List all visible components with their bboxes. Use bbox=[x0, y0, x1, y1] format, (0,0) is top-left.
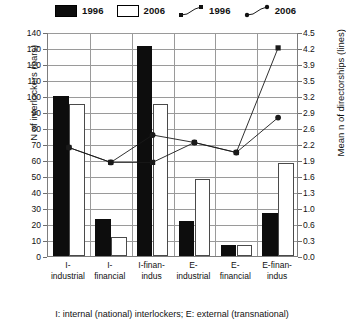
left-axis-tick-label: 0 bbox=[17, 253, 41, 262]
x-axis-label-line1: I- bbox=[89, 260, 131, 271]
right-axis-tick-label: 2.6 bbox=[303, 125, 329, 134]
x-axis-label-i-industrial: I-industrial bbox=[47, 260, 89, 281]
left-axis-tick-label: 80 bbox=[17, 125, 41, 134]
left-axis-tick-label: 140 bbox=[17, 29, 41, 38]
left-axis-tick-mark bbox=[43, 33, 47, 34]
line-circle-marker-icon bbox=[244, 5, 270, 18]
left-axis-tick-label: 50 bbox=[17, 173, 41, 182]
left-axis-tick-mark bbox=[43, 65, 47, 66]
right-axis-tick-label: 4.2 bbox=[303, 45, 329, 54]
right-axis-tick-mark bbox=[298, 225, 302, 226]
filled-square-swatch-icon bbox=[55, 5, 77, 17]
x-axis-label-line2: financial bbox=[214, 271, 256, 282]
right-axis-tick-mark bbox=[298, 177, 302, 178]
x-axis-label-line1: I- bbox=[47, 260, 89, 271]
legend-item-bar-2006: 2006 bbox=[117, 5, 166, 17]
x-axis-label-line1: E-finan- bbox=[256, 260, 298, 271]
right-axis-tick-label: 0.6 bbox=[303, 221, 329, 230]
left-axis-tick-label: 120 bbox=[17, 61, 41, 70]
left-axis-tick-mark bbox=[43, 145, 47, 146]
x-axis-label-line2: industrial bbox=[47, 271, 89, 282]
line-square-marker-icon bbox=[178, 5, 204, 18]
line-marker-circle bbox=[66, 145, 72, 151]
right-axis-tick-label: 1.9 bbox=[303, 157, 329, 166]
left-axis-tick-mark bbox=[43, 49, 47, 50]
left-axis-tick-label: 130 bbox=[17, 45, 41, 54]
legend-label: 1996 bbox=[82, 6, 104, 16]
legend-label: 2006 bbox=[275, 6, 297, 16]
line-marker-circle bbox=[108, 160, 114, 166]
right-axis-tick-label: 1.0 bbox=[303, 205, 329, 214]
x-axis-label-i-finan-indus: I-finan-indus bbox=[131, 260, 173, 281]
x-axis-label-line1: E- bbox=[214, 260, 256, 271]
legend-item-line-1996: 1996 bbox=[178, 5, 231, 18]
line-marker-square bbox=[276, 45, 281, 50]
right-axis-tick-mark bbox=[298, 113, 302, 114]
left-axis-tick-label: 100 bbox=[17, 93, 41, 102]
left-axis-tick-mark bbox=[43, 161, 47, 162]
right-axis-tick-mark bbox=[298, 97, 302, 98]
left-axis-tick-label: 60 bbox=[17, 157, 41, 166]
left-axis-tick-mark bbox=[43, 193, 47, 194]
line-marker-circle bbox=[192, 140, 198, 146]
x-axis-label-e-financial: E-financial bbox=[214, 260, 256, 281]
x-axis-label-line1: E- bbox=[173, 260, 215, 271]
x-axis-category-labels: I-industrialI-financialI-finan-indusE-in… bbox=[47, 260, 298, 284]
right-axis-tick-mark bbox=[298, 209, 302, 210]
line-series-layer bbox=[48, 33, 299, 257]
right-axis-tick-mark bbox=[298, 49, 302, 50]
right-axis-tick-mark bbox=[298, 33, 302, 34]
x-axis-label-line2: financial bbox=[89, 271, 131, 282]
left-axis-tick-label: 90 bbox=[17, 109, 41, 118]
left-axis-tick-mark bbox=[43, 113, 47, 114]
chart-legend: 1996 2006 1996 bbox=[55, 2, 335, 20]
left-axis-tick-mark bbox=[43, 97, 47, 98]
right-axis-tick-label: 1.3 bbox=[303, 189, 329, 198]
left-axis-tick-mark bbox=[43, 81, 47, 82]
left-axis-tick-mark bbox=[43, 241, 47, 242]
right-axis-tick-label: 2.9 bbox=[303, 109, 329, 118]
left-axis-tick-mark bbox=[43, 129, 47, 130]
plot-area bbox=[47, 33, 298, 257]
line-marker-circle bbox=[150, 132, 156, 138]
left-axis-tick-mark bbox=[43, 177, 47, 178]
line-marker-circle bbox=[233, 150, 239, 156]
right-axis-tick-label: 3.5 bbox=[303, 77, 329, 86]
right-axis-tick-label: 0.3 bbox=[303, 237, 329, 246]
line-2006-circle bbox=[69, 118, 278, 163]
right-axis-tick-mark bbox=[298, 145, 302, 146]
x-axis-label-line2: indus bbox=[131, 271, 173, 282]
x-axis-label-line2: industrial bbox=[173, 271, 215, 282]
right-axis-tick-mark bbox=[298, 161, 302, 162]
right-axis-tick-label: 3.2 bbox=[303, 93, 329, 102]
right-axis-tick-label: 1.6 bbox=[303, 173, 329, 182]
x-axis-label-i-financial: I-financial bbox=[89, 260, 131, 281]
left-axis-tick-label: 30 bbox=[17, 205, 41, 214]
legend-label: 2006 bbox=[144, 6, 166, 16]
right-axis-tick-mark bbox=[298, 241, 302, 242]
line-1996-square bbox=[69, 48, 278, 162]
right-axis-tick-mark bbox=[298, 257, 302, 258]
left-axis-tick-label: 70 bbox=[17, 141, 41, 150]
right-axis-tick-mark bbox=[298, 129, 302, 130]
legend-item-bar-1996: 1996 bbox=[55, 5, 104, 17]
legend-label: 1996 bbox=[209, 6, 231, 16]
line-marker-circle bbox=[275, 115, 281, 121]
left-axis-tick-label: 110 bbox=[17, 77, 41, 86]
x-axis-label-e-industrial: E-industrial bbox=[173, 260, 215, 281]
left-axis-tick-label: 20 bbox=[17, 221, 41, 230]
hollow-square-swatch-icon bbox=[117, 5, 139, 17]
x-axis-label-line1: I-finan- bbox=[131, 260, 173, 271]
left-axis-tick-mark bbox=[43, 257, 47, 258]
right-axis-tick-mark bbox=[298, 65, 302, 66]
right-axis-tick-label: 2.2 bbox=[303, 141, 329, 150]
legend-item-line-2006: 2006 bbox=[244, 5, 297, 18]
figure-caption: I: internal (national) interlockers; E: … bbox=[0, 310, 344, 319]
right-axis-tick-label: 0.0 bbox=[303, 253, 329, 262]
right-axis-tick-label: 3.9 bbox=[303, 61, 329, 70]
right-axis-tick-mark bbox=[298, 81, 302, 82]
x-axis-label-line2: indus bbox=[256, 271, 298, 282]
line-marker-square bbox=[150, 160, 155, 165]
x-axis-label-e-finan-indus: E-finan-indus bbox=[256, 260, 298, 281]
